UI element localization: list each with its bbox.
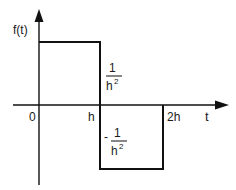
x-tick-h: h <box>88 110 95 124</box>
pulse-diagram: f(t) 0 h 2h t 1 h 2 - 1 h 2 <box>0 0 236 190</box>
positive-level-label: 1 h 2 <box>106 61 122 93</box>
positive-numerator: 1 <box>109 61 116 75</box>
x-axis <box>13 101 229 110</box>
positive-exponent: 2 <box>114 77 119 86</box>
negative-sign: - <box>104 130 108 144</box>
y-axis-label: f(t) <box>13 23 28 37</box>
x-tick-0: 0 <box>29 110 36 124</box>
x-tick-2h: 2h <box>167 110 180 124</box>
negative-numerator: 1 <box>114 126 121 140</box>
y-axis <box>35 9 44 185</box>
negative-exponent: 2 <box>119 142 124 151</box>
y-axis-arrow-icon <box>35 9 44 22</box>
x-axis-label: t <box>205 109 209 124</box>
negative-level-label: - 1 h 2 <box>104 126 127 158</box>
positive-pulse <box>39 42 100 105</box>
x-axis-arrow-icon <box>215 101 229 110</box>
positive-denominator: h <box>106 79 113 93</box>
negative-denominator: h <box>111 144 118 158</box>
negative-pulse <box>100 105 163 169</box>
